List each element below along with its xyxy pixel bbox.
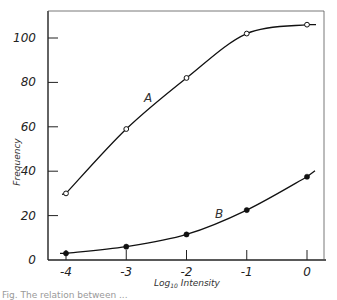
- x-ticks: [66, 250, 307, 260]
- x-tick-labels: -4-3-2-10: [60, 265, 311, 279]
- series-a-point: [305, 22, 310, 27]
- y-tick-label: 60: [21, 120, 37, 134]
- y-tick-label: 20: [21, 209, 37, 223]
- x-tick-label: -1: [241, 265, 253, 279]
- series-a-point: [124, 127, 129, 132]
- figure-caption: Fig. The relation between ...: [2, 290, 128, 300]
- y-axis-title: Frequency: [12, 138, 22, 186]
- series-b-point: [184, 232, 189, 237]
- x-tick-label: -4: [60, 265, 72, 279]
- series-a-point: [244, 31, 249, 36]
- plot-frame: [48, 11, 326, 260]
- series-a-markers: [64, 22, 310, 196]
- series-b-point: [124, 244, 129, 249]
- x-axis-title-main: Log: [154, 278, 171, 288]
- series-a-point: [64, 191, 69, 196]
- series-b-curve: [60, 171, 315, 254]
- x-tick-label: -2: [181, 265, 193, 279]
- y-tick-label: 100: [13, 31, 36, 45]
- series-a-curve: [62, 25, 316, 195]
- series-b-markers: [63, 174, 309, 256]
- series-b-point: [63, 251, 68, 256]
- x-axis-title-sub: 10: [170, 282, 178, 289]
- series-a-label: A: [143, 91, 152, 105]
- y-ticks: [48, 38, 58, 216]
- y-tick-label: 40: [21, 164, 37, 178]
- series-b-point: [304, 174, 309, 179]
- series-b-point: [244, 207, 249, 212]
- y-tick-label: 80: [21, 75, 37, 89]
- series-a-point: [184, 76, 189, 81]
- x-axis-title-rest: Intensity: [178, 278, 221, 288]
- x-axis-title: Log10 Intensity: [154, 278, 221, 289]
- series-b-label: B: [215, 207, 223, 221]
- y-tick-label: 0: [28, 253, 36, 267]
- x-tick-label: -3: [120, 265, 132, 279]
- x-tick-label: 0: [303, 265, 311, 279]
